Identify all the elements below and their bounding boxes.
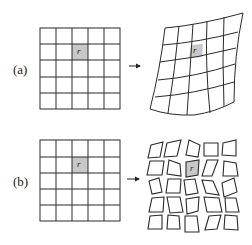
- diagram-canvas: [0, 0, 252, 245]
- vector-r-symbol: r⃗: [77, 46, 88, 56]
- arrow-icon: [129, 64, 141, 69]
- panel-b-broken-cells: [147, 140, 239, 232]
- vector-r-symbol: r⃗: [77, 159, 88, 169]
- panel-b-regular-grid: [40, 140, 120, 221]
- figure: (a) (b) r⃗ r⃗ r⃗ r⃗: [0, 0, 252, 245]
- panel-a-label: (a): [13, 62, 27, 78]
- panel-a-deformed-grid: [150, 13, 243, 115]
- vector-r-symbol: r⃗: [193, 45, 204, 55]
- panel-a-regular-grid: [40, 28, 120, 109]
- vector-r-symbol: r⃗: [190, 163, 201, 173]
- panel-b-label: (b): [13, 174, 28, 190]
- arrow-icon: [127, 177, 140, 182]
